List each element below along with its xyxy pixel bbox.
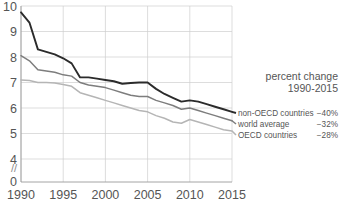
y-tick-9: 9 <box>10 25 17 39</box>
legend-value-1: −32% <box>317 120 338 129</box>
legend-title-line1: percent change <box>266 70 339 82</box>
line-chart: 10987654 199019952000200520102015 // 0 p… <box>0 0 341 205</box>
y-axis-break-icon: // <box>11 162 18 174</box>
y-tick-7: 7 <box>10 76 17 90</box>
legend-label-1: world average <box>237 120 290 129</box>
y-tick-10: 10 <box>3 0 17 14</box>
legend-value-0: −40% <box>317 109 338 118</box>
chart-background <box>0 0 341 205</box>
y-tick-5: 5 <box>10 127 17 141</box>
y-axis-zero-label: 0 <box>10 175 17 189</box>
legend-rows: non-OECD countries−40%world average−32%O… <box>232 109 338 140</box>
x-tick-1995: 1995 <box>49 188 77 202</box>
legend-value-2: −28% <box>317 131 338 140</box>
x-tick-2000: 2000 <box>91 188 119 202</box>
x-tick-2005: 2005 <box>134 188 162 202</box>
legend-title-line2: 1990-2015 <box>288 82 338 94</box>
legend-label-0: non-OECD countries <box>238 109 314 118</box>
x-tick-1990: 1990 <box>7 188 35 202</box>
x-tick-2010: 2010 <box>176 188 204 202</box>
y-tick-8: 8 <box>10 51 17 65</box>
y-tick-6: 6 <box>10 102 17 116</box>
chart-container: 10987654 199019952000200520102015 // 0 p… <box>0 0 341 205</box>
legend-label-2: OECD countries <box>238 131 297 140</box>
x-tick-2015: 2015 <box>218 188 246 202</box>
legend-connector-0 <box>232 112 236 113</box>
